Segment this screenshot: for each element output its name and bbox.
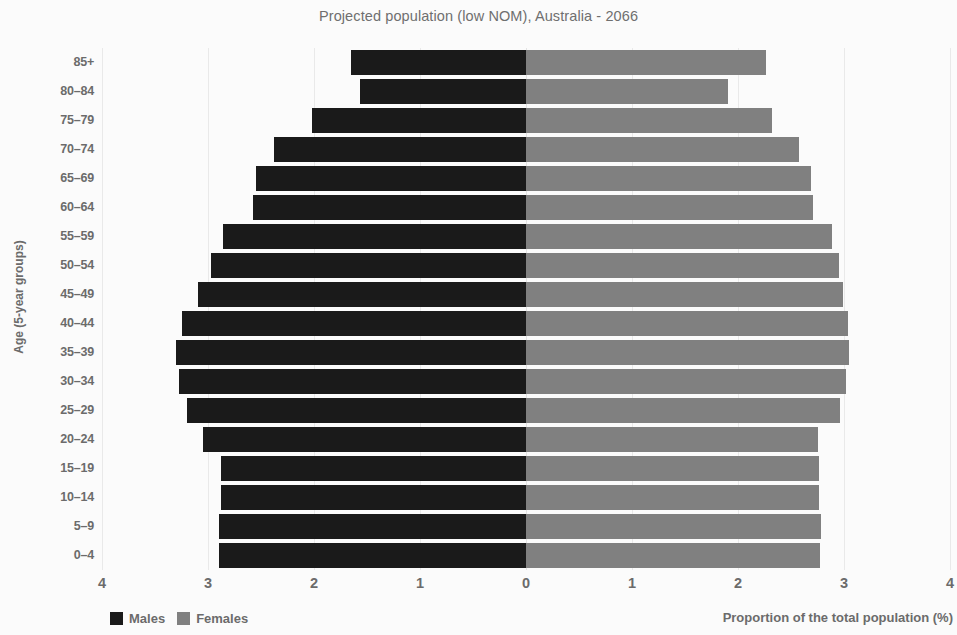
bar-female-60–64[interactable] <box>526 195 813 220</box>
bar-row <box>102 311 950 336</box>
bar-female-80–84[interactable] <box>526 79 728 104</box>
bar-male-85+[interactable] <box>351 50 526 75</box>
y-tick-label-50–54: 50–54 <box>2 258 94 272</box>
bar-row <box>102 514 950 539</box>
x-tick-label-3: 1 <box>416 575 424 591</box>
y-tick-label-0–4: 0–4 <box>2 548 94 562</box>
y-tick-label-10–14: 10–14 <box>2 490 94 504</box>
y-tick-label-55–59: 55–59 <box>2 229 94 243</box>
bar-row <box>102 485 950 510</box>
bar-female-50–54[interactable] <box>526 253 839 278</box>
x-tick-label-0: 4 <box>98 575 106 591</box>
bar-row <box>102 427 950 452</box>
y-tick-label-35–39: 35–39 <box>2 345 94 359</box>
bar-male-5–9[interactable] <box>219 514 526 539</box>
y-tick-label-15–19: 15–19 <box>2 461 94 475</box>
y-tick-label-80–84: 80–84 <box>2 84 94 98</box>
bar-female-75–79[interactable] <box>526 108 772 133</box>
x-tick-label-2: 2 <box>310 575 318 591</box>
legend-swatch-males <box>110 612 123 625</box>
bar-female-10–14[interactable] <box>526 485 819 510</box>
legend-item-males[interactable]: Males <box>110 611 165 626</box>
y-tick-label-75–79: 75–79 <box>2 113 94 127</box>
chart-legend: MalesFemales <box>110 611 248 626</box>
y-tick-label-30–34: 30–34 <box>2 374 94 388</box>
x-tick-label-8: 4 <box>946 575 954 591</box>
y-tick-label-40–44: 40–44 <box>2 316 94 330</box>
bar-row <box>102 108 950 133</box>
y-tick-label-20–24: 20–24 <box>2 432 94 446</box>
bar-row <box>102 79 950 104</box>
y-tick-label-70–74: 70–74 <box>2 142 94 156</box>
bar-female-20–24[interactable] <box>526 427 818 452</box>
bar-female-5–9[interactable] <box>526 514 821 539</box>
bar-female-0–4[interactable] <box>526 543 820 568</box>
bar-male-0–4[interactable] <box>219 543 526 568</box>
bar-male-35–39[interactable] <box>176 340 526 365</box>
x-tick-label-7: 3 <box>840 575 848 591</box>
bar-male-70–74[interactable] <box>274 137 526 162</box>
y-tick-label-45–49: 45–49 <box>2 287 94 301</box>
bar-male-60–64[interactable] <box>253 195 526 220</box>
x-tick-label-1: 3 <box>204 575 212 591</box>
bar-row <box>102 137 950 162</box>
y-tick-label-5–9: 5–9 <box>2 519 94 533</box>
x-tick-label-5: 1 <box>628 575 636 591</box>
bar-female-45–49[interactable] <box>526 282 843 307</box>
bar-male-80–84[interactable] <box>360 79 526 104</box>
plot-area <box>102 48 950 570</box>
y-tick-label-65–69: 65–69 <box>2 171 94 185</box>
bar-row <box>102 456 950 481</box>
bar-row <box>102 398 950 423</box>
bar-male-20–24[interactable] <box>203 427 526 452</box>
y-axis-tick-labels: 85+80–8475–7970–7465–6960–6455–5950–5445… <box>0 48 94 570</box>
legend-swatch-females <box>177 612 190 625</box>
bar-male-65–69[interactable] <box>256 166 526 191</box>
bar-row <box>102 340 950 365</box>
y-tick-label-25–29: 25–29 <box>2 403 94 417</box>
bar-male-25–29[interactable] <box>187 398 526 423</box>
bar-male-10–14[interactable] <box>221 485 526 510</box>
bar-female-40–44[interactable] <box>526 311 848 336</box>
legend-label-females: Females <box>196 611 248 626</box>
bar-row <box>102 282 950 307</box>
bar-male-30–34[interactable] <box>179 369 526 394</box>
bar-male-45–49[interactable] <box>198 282 526 307</box>
legend-label-males: Males <box>129 611 165 626</box>
bar-male-75–79[interactable] <box>312 108 526 133</box>
bar-female-65–69[interactable] <box>526 166 811 191</box>
y-tick-label-85+: 85+ <box>2 55 94 69</box>
bar-row <box>102 166 950 191</box>
bar-row <box>102 50 950 75</box>
bar-female-15–19[interactable] <box>526 456 819 481</box>
bar-row <box>102 369 950 394</box>
bar-row <box>102 253 950 278</box>
bar-row <box>102 195 950 220</box>
bar-male-40–44[interactable] <box>182 311 527 336</box>
x-tick-label-6: 2 <box>734 575 742 591</box>
bar-female-35–39[interactable] <box>526 340 849 365</box>
bar-female-70–74[interactable] <box>526 137 799 162</box>
population-pyramid-chart: Projected population (low NOM), Australi… <box>0 0 957 635</box>
bar-female-55–59[interactable] <box>526 224 832 249</box>
legend-item-females[interactable]: Females <box>177 611 248 626</box>
bar-female-25–29[interactable] <box>526 398 840 423</box>
bar-row <box>102 224 950 249</box>
chart-title: Projected population (low NOM), Australi… <box>0 8 957 24</box>
gridline-4-right <box>950 48 951 570</box>
bar-male-15–19[interactable] <box>221 456 526 481</box>
bar-row <box>102 543 950 568</box>
bar-male-50–54[interactable] <box>211 253 526 278</box>
x-axis-tick-labels: 432101234 <box>102 575 950 599</box>
bar-male-55–59[interactable] <box>223 224 526 249</box>
x-tick-label-4: 0 <box>522 575 530 591</box>
bar-female-30–34[interactable] <box>526 369 846 394</box>
x-axis-title: Proportion of the total population (%) <box>723 610 953 625</box>
bar-female-85+[interactable] <box>526 50 766 75</box>
y-tick-label-60–64: 60–64 <box>2 200 94 214</box>
